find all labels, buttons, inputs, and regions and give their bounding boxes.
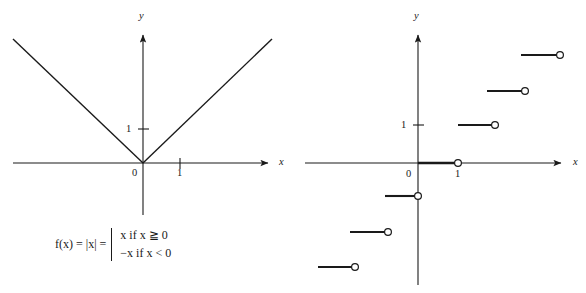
open-circle-y3 (557, 52, 564, 59)
case-line-bottom: −x if x < 0 (120, 246, 171, 261)
x-tick-label-1: 1 (177, 168, 182, 179)
greatest-integer-plot (293, 0, 586, 293)
open-circle-yn2 (385, 229, 392, 236)
step-segments (318, 52, 563, 271)
open-circle-y0 (455, 160, 462, 167)
y-tick-label-1: 1 (126, 124, 131, 135)
absolute-value-caption: f(x) = |x| = x if x ≧ 0 −x if x < 0 (55, 228, 171, 261)
x-axis-label: x (573, 157, 578, 168)
case-brace (111, 228, 112, 261)
y-axis-label: y (139, 11, 144, 22)
origin-label: 0 (406, 169, 411, 180)
open-circle-yn3 (352, 264, 359, 271)
x-tick-label-1: 1 (455, 169, 460, 180)
x-axis-label: x (279, 157, 284, 168)
origin-label: 0 (132, 168, 137, 179)
y-axis-label: y (414, 11, 419, 22)
panel-absolute-value: x y 0 1 1 f(x) = |x| = x if x ≧ 0 −x if … (0, 0, 293, 293)
caption-lhs: f(x) = |x| = (55, 237, 111, 252)
y-tick-label-1: 1 (401, 120, 406, 131)
panel-greatest-integer: x y 0 1 1 g(x) = [x] is the greatest int… (293, 0, 586, 293)
absolute-value-right-branch (143, 39, 272, 163)
figure-canvas: x y 0 1 1 f(x) = |x| = x if x ≧ 0 −x if … (0, 0, 586, 293)
case-list: x if x ≧ 0 −x if x < 0 (120, 228, 171, 261)
open-circle-y1 (492, 122, 499, 129)
open-circle-y2 (522, 88, 529, 95)
absolute-value-left-branch (13, 39, 143, 163)
case-line-top: x if x ≧ 0 (120, 228, 171, 243)
open-circle-yn1 (415, 193, 422, 200)
